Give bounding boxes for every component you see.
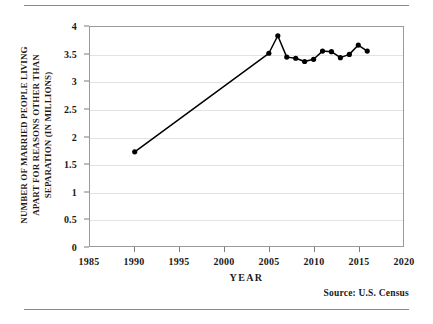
series-line-chart — [90, 27, 403, 246]
x-tick-label-2020: 2020 — [394, 256, 415, 267]
y-tick-label-3: 3 — [72, 76, 77, 87]
x-tick-label-1985: 1985 — [79, 256, 100, 267]
x-tick-label-2015: 2015 — [349, 256, 370, 267]
x-tick-label-1990: 1990 — [124, 256, 145, 267]
x-tick-mark-2015 — [359, 247, 360, 252]
x-tick-label-2010: 2010 — [304, 256, 325, 267]
data-point-2008 — [293, 56, 298, 61]
bottom-divider-rule — [24, 309, 409, 310]
data-point-2013 — [338, 55, 343, 60]
y-tick-label-1.5: 1.5 — [64, 159, 77, 170]
x-tick-label-1995: 1995 — [169, 256, 190, 267]
data-point-2014 — [347, 52, 352, 57]
x-tick-mark-2005 — [269, 247, 270, 252]
y-tick-label-2: 2 — [72, 131, 77, 142]
y-tick-label-0.5: 0.5 — [64, 214, 77, 225]
plot-area — [89, 26, 404, 247]
x-tick-mark-1990 — [134, 247, 135, 252]
data-point-2012 — [329, 49, 334, 54]
y-tick-label-1: 1 — [72, 186, 77, 197]
data-point-1990 — [132, 149, 137, 154]
data-point-2011 — [320, 49, 325, 54]
chart-figure: NUMBER OF MARRIED PEOPLE LIVING APART FO… — [0, 0, 433, 324]
data-point-2007 — [284, 55, 289, 60]
y-tick-label-3.5: 3.5 — [64, 48, 77, 59]
y-tick-label-2.5: 2.5 — [64, 103, 77, 114]
x-tick-label-2000: 2000 — [214, 256, 235, 267]
x-tick-mark-2010 — [314, 247, 315, 252]
x-tick-mark-2000 — [224, 247, 225, 252]
source-note: Source: U.S. Census — [324, 288, 409, 298]
data-point-2015 — [356, 42, 361, 47]
x-tick-label-2005: 2005 — [259, 256, 280, 267]
y-axis-ticks: 00.511.522.533.54 — [0, 0, 89, 273]
y-tick-label-4: 4 — [72, 21, 77, 32]
data-point-2006 — [275, 33, 280, 38]
data-point-2009 — [302, 59, 307, 64]
x-tick-mark-1995 — [179, 247, 180, 252]
x-axis-title: YEAR — [89, 272, 404, 283]
data-point-2016 — [365, 49, 370, 54]
data-point-2005 — [266, 51, 271, 56]
data-point-2010 — [311, 57, 316, 62]
